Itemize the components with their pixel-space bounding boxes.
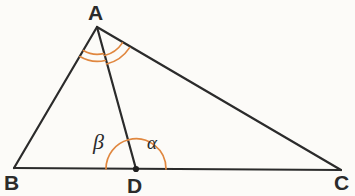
angle-label-beta: β (93, 131, 104, 153)
geometry-diagram-canvas: A B D C β α (0, 0, 355, 196)
angle-arc-a-right (105, 43, 130, 64)
geometry-figure (0, 0, 355, 196)
angle-label-alpha: α (147, 133, 157, 152)
vertex-label-d: D (127, 175, 142, 196)
segment-ac (97, 27, 341, 170)
vertex-label-b: B (4, 172, 19, 193)
segment-bc (14, 168, 341, 170)
angle-arc-a-left (80, 51, 105, 62)
point-marker-d (133, 166, 139, 172)
angle-arc-d-beta (106, 140, 128, 169)
vertex-label-a: A (88, 2, 103, 23)
segment-ab (14, 27, 97, 168)
vertex-label-c: C (334, 172, 349, 193)
